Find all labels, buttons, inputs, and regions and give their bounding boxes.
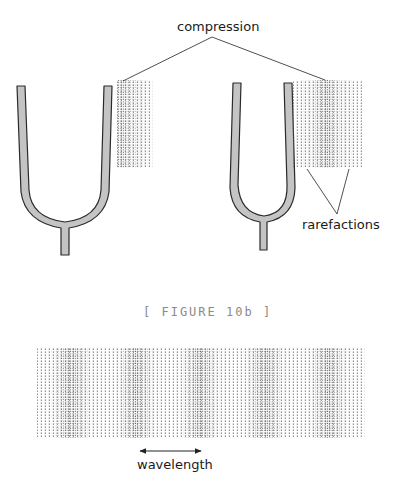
sound-wave-diagram (0, 0, 394, 497)
figure-caption: [ FIGURE 10b ] (143, 305, 272, 319)
right-tuning-fork (230, 83, 295, 250)
longitudinal-wave (37, 348, 365, 438)
right-air-particles (293, 80, 363, 168)
left-air-particles (117, 80, 153, 168)
rarefaction-leader-lines (307, 169, 349, 214)
rarefactions-label: rarefactions (302, 217, 380, 232)
compression-label: compression (177, 19, 259, 34)
wavelength-label: wavelength (137, 457, 213, 472)
compression-leader-lines (123, 37, 325, 81)
left-tuning-fork (17, 86, 112, 255)
